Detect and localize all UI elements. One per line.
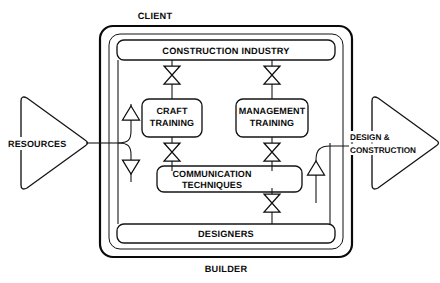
bowtie-valve-icon (264, 194, 280, 212)
bowtie-valve-icon (164, 66, 180, 84)
output-arrow-label-line1: DESIGN & (350, 133, 390, 142)
bowtie-valve-icon (264, 143, 280, 161)
outer-title-builder: BUILDER (205, 264, 248, 274)
bowtie-valve-icon (164, 143, 180, 161)
diagram-canvas: CONSTRUCTION INDUSTRY DESIGNERS CRAFT TR… (0, 0, 440, 283)
system-flow-diagram: CONSTRUCTION INDUSTRY DESIGNERS CRAFT TR… (0, 0, 440, 283)
box-craft-training-line2: TRAINING (150, 118, 194, 128)
output-arrow-label-line2: CONSTRUCTION (350, 146, 416, 155)
box-communication-techniques-line2: TECHNIQUES (182, 180, 242, 190)
up-triangle-icon (123, 106, 140, 120)
inner-boundary (109, 34, 343, 249)
outer-title-client: CLIENT (138, 11, 173, 21)
band-designers-label: DESIGNERS (198, 229, 254, 239)
up-triangle-icon (308, 161, 325, 175)
output-arrow-design-construction (372, 97, 439, 189)
band-construction-industry-label: CONSTRUCTION INDUSTRY (162, 46, 289, 56)
input-arrow-resources-label: RESOURCES (8, 139, 66, 149)
box-management-training-line1: MANAGEMENT (239, 106, 306, 116)
bowtie-valve-icon (264, 66, 280, 84)
box-craft-training-line1: CRAFT (157, 106, 188, 116)
box-communication-techniques-line1: COMMUNICATION (172, 169, 251, 179)
box-management-training-line2: TRAINING (250, 118, 294, 128)
down-triangle-icon (123, 160, 140, 174)
